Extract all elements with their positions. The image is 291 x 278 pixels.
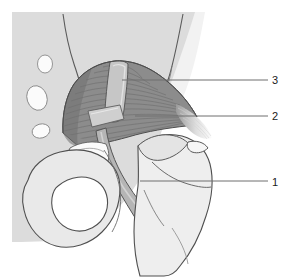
obturator-foramen [52,177,108,231]
anatomy-illustration-canvas: 3 2 1 [0,0,291,278]
label-2: 2 [272,110,278,122]
label-3: 3 [272,74,278,86]
anatomical-figure: 3 2 1 [0,0,291,278]
sacral-foramen-upper [38,55,53,73]
label-1: 1 [272,176,278,188]
